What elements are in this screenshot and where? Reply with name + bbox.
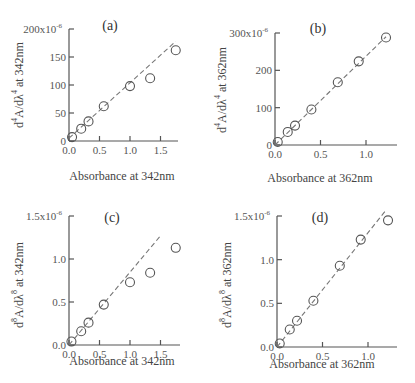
- panel-title: (d): [312, 210, 329, 226]
- y-tick-label: 300x10-6: [229, 26, 268, 39]
- panel-b: 0100200300x10-60.00.51.0(b)Absorbance at…: [213, 21, 397, 185]
- y-tick-label: 1.0: [52, 253, 66, 265]
- x-axis-title: Absorbance at 362nm: [269, 357, 375, 371]
- x-tick-label: 1.0: [123, 144, 137, 156]
- panel-title: (b): [310, 21, 327, 37]
- data-point: [84, 318, 93, 327]
- y-tick-label: 0.5: [260, 297, 274, 309]
- x-tick-label: 0.0: [268, 148, 282, 160]
- panel-d: 0.00.51.01.5x10-60.00.51.0(d)Absorbance …: [218, 209, 397, 371]
- y-tick-label: 100: [256, 102, 273, 114]
- y-tick-label: 100: [50, 79, 67, 91]
- panel-a: 050100150200x10-60.00.51.01.5(a)Absorban…: [10, 18, 180, 183]
- y-tick-label: 50: [55, 107, 67, 119]
- data-point: [146, 74, 155, 83]
- y-tick-label: 150: [50, 51, 67, 63]
- y-tick-label: 200: [256, 64, 273, 76]
- panel-title: (c): [104, 210, 120, 226]
- data-point: [171, 46, 180, 55]
- y-axis-title: d8A/dλ8 at 342nm: [10, 241, 26, 327]
- data-point: [146, 268, 155, 277]
- x-tick-label: 0.5: [93, 144, 107, 156]
- y-tick-label: 200x10-6: [23, 22, 62, 35]
- y-tick-label: 1.5x10-6: [26, 209, 63, 222]
- panel-c: 0.00.51.01.5x10-60.00.51.01.5(c)Absorban…: [10, 209, 180, 368]
- fit-line: [69, 236, 161, 345]
- data-point: [126, 278, 135, 287]
- x-axis-title: Absorbance at 342nm: [69, 169, 175, 183]
- data-point: [285, 325, 294, 334]
- data-point: [99, 102, 108, 111]
- x-tick-label: 1.0: [359, 148, 373, 160]
- data-point: [171, 243, 180, 252]
- x-tick-label: 0.5: [314, 148, 328, 160]
- data-point: [384, 216, 393, 225]
- y-axis-title: d4A/dλ4 at 342nm: [10, 41, 26, 127]
- y-tick-label: 1.0: [260, 254, 274, 266]
- data-point: [356, 235, 365, 244]
- y-axis-title: d8A/dλ8 at 362nm: [218, 241, 234, 327]
- figure-four-panel-scatter: 050100150200x10-60.00.51.01.5(a)Absorban…: [0, 0, 415, 383]
- data-point: [293, 316, 302, 325]
- data-point: [333, 78, 342, 87]
- data-point: [99, 300, 108, 309]
- y-axis-title: d4A/dλ4 at 362nm: [213, 46, 229, 132]
- data-point: [77, 124, 86, 133]
- x-axis-title: Absorbance at 342nm: [69, 354, 175, 368]
- data-point: [354, 57, 363, 66]
- y-tick-label: 1.5x10-6: [234, 209, 271, 222]
- data-point: [84, 117, 93, 126]
- panel-title: (a): [102, 18, 118, 34]
- x-axis-title: Absorbance at 362nm: [267, 171, 373, 185]
- x-tick-label: 1.5: [154, 144, 168, 156]
- y-tick-label: 0.5: [52, 296, 66, 308]
- x-tick-label: 0.0: [62, 144, 76, 156]
